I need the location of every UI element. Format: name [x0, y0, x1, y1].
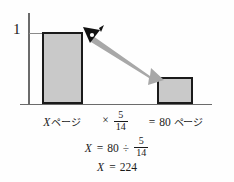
arrow-shaft-icon: [91, 36, 164, 85]
equation-line-3: X=224: [0, 161, 234, 173]
right-bar-label: =80ページ: [145, 114, 203, 129]
eq2-equals: =: [93, 142, 108, 154]
fraction-numerator: 5: [116, 110, 125, 121]
eq3-result: 224: [120, 161, 137, 173]
multiplier-expression: ×514: [98, 110, 129, 133]
y-tick-line: [29, 33, 43, 34]
y-axis: [28, 13, 30, 105]
eq3-equals: =: [105, 161, 120, 173]
right-value: 80: [159, 116, 171, 128]
eq2-fraction-5-14: 514: [134, 136, 148, 159]
fraction-5-14: 514: [114, 110, 128, 133]
eq2-fraction-denominator: 14: [134, 147, 148, 159]
right-bar: [157, 77, 193, 104]
pointer-nib-hole-icon: [90, 33, 94, 37]
equation-line-1: Xページ ×514 =80ページ: [0, 110, 234, 133]
eq2-fraction-numerator: 5: [137, 136, 146, 147]
eq2-divide-operator: ÷: [119, 142, 133, 154]
left-unit: ページ: [51, 117, 80, 128]
left-variable: X: [43, 116, 51, 128]
multiply-operator: ×: [98, 114, 113, 126]
eq2-value: 80: [107, 142, 119, 154]
left-bar-label: Xページ: [43, 114, 80, 129]
pointer-nib-icon: [83, 27, 100, 43]
diagram-canvas: 1 Xページ ×514 =80ページ X=80÷514 X=224: [0, 0, 234, 182]
right-unit: ページ: [174, 117, 203, 128]
eq3-variable: X: [97, 161, 105, 173]
y-tick-label: 1: [13, 22, 21, 37]
left-bar: [42, 32, 83, 104]
equals-operator: =: [145, 116, 160, 128]
eq2-variable: X: [85, 142, 93, 154]
equation-line-2: X=80÷514: [0, 136, 234, 159]
pointer-nib-tip-icon: [99, 25, 104, 32]
fraction-denominator: 14: [114, 121, 128, 133]
